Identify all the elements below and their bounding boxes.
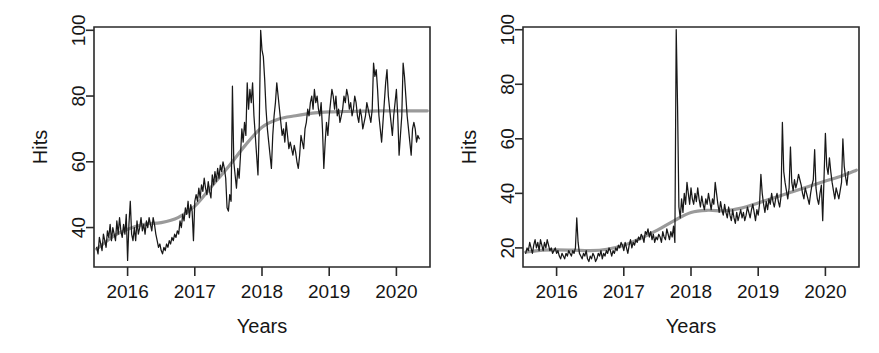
- x-tick-label-right-0: 2016: [535, 281, 577, 302]
- y-tick-label-left-3: 100: [68, 14, 89, 46]
- y-tick-label-right-0: 20: [497, 237, 518, 258]
- x-axis-title-right: Years: [666, 315, 716, 337]
- chart-panel-right: 2040608010020162017201820192020YearsHits: [439, 0, 878, 353]
- y-tick-label-right-3: 80: [497, 74, 518, 95]
- x-tick-label-right-1: 2017: [603, 281, 645, 302]
- data-layer-left: [97, 30, 428, 260]
- x-tick-label-left-0: 2016: [106, 281, 148, 302]
- chart-svg-right: 2040608010020162017201820192020YearsHits: [439, 0, 878, 353]
- y-axis-title-left: Hits: [29, 130, 51, 164]
- series-line-right-0: [526, 30, 849, 262]
- x-tick-label-right-4: 2020: [804, 281, 846, 302]
- x-tick-label-left-4: 2020: [375, 281, 417, 302]
- x-tick-label-right-3: 2019: [737, 281, 779, 302]
- chart-svg-left: 40608010020162017201820192020YearsHits: [0, 0, 439, 353]
- y-tick-label-right-4: 100: [497, 14, 518, 46]
- x-axis-title-left: Years: [237, 315, 287, 337]
- data-layer-right: [526, 30, 857, 262]
- figure-two-panel-timeseries: 40608010020162017201820192020YearsHits 2…: [0, 0, 879, 353]
- x-tick-label-right-2: 2018: [670, 281, 712, 302]
- y-axis-title-right: Hits: [458, 130, 480, 164]
- x-tick-label-left-1: 2017: [174, 281, 216, 302]
- y-tick-label-left-1: 60: [68, 151, 89, 172]
- y-tick-label-right-1: 40: [497, 183, 518, 204]
- x-tick-label-left-2: 2018: [241, 281, 283, 302]
- y-tick-label-left-0: 40: [68, 217, 89, 238]
- y-tick-label-right-2: 60: [497, 128, 518, 149]
- x-tick-label-left-3: 2019: [308, 281, 350, 302]
- y-tick-label-left-2: 80: [68, 85, 89, 106]
- series-line-left-0: [97, 30, 420, 260]
- plot-box-right: [523, 27, 859, 267]
- chart-panel-left: 40608010020162017201820192020YearsHits: [0, 0, 439, 353]
